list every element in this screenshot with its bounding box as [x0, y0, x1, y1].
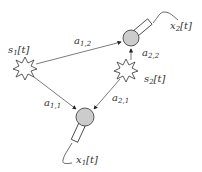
mixing-diagram: s1[t] s2[t] x2[t] x1[t] a1,2 a2,2 a1,1 a… — [0, 0, 202, 172]
source-s2-star — [114, 59, 138, 82]
label-s1: s1[t] — [8, 44, 30, 57]
mic-head-x1 — [76, 108, 94, 126]
cable-x1 — [63, 143, 72, 164]
label-a11: a1,1 — [44, 97, 61, 110]
label-s2: s2[t] — [144, 73, 166, 86]
label-a22: a2,2 — [142, 47, 160, 60]
mic-head-x2 — [123, 30, 139, 46]
label-a12: a1,2 — [74, 35, 92, 48]
label-x2: x2[t] — [170, 20, 192, 33]
label-a21: a2,1 — [112, 92, 129, 105]
source-s1-star — [13, 57, 37, 80]
label-x1: x1[t] — [76, 154, 98, 167]
